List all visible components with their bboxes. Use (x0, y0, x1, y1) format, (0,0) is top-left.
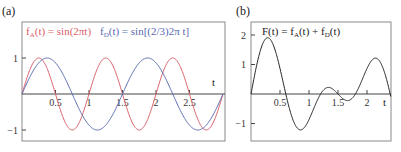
svg-text:2.5: 2.5 (183, 97, 196, 108)
svg-text:1: 1 (307, 97, 312, 108)
svg-text:1: 1 (13, 53, 18, 64)
legend-f-a: fA(t) = sin(2πt) (26, 25, 91, 39)
svg-text:2: 2 (365, 97, 370, 108)
figure: (a) 0.511.522.5 1−1 t fA(t) = sin(2πt) f… (0, 0, 401, 152)
svg-text:−1: −1 (7, 125, 18, 136)
svg-text:2: 2 (241, 30, 246, 41)
panel-b-label: (b) (236, 4, 250, 18)
panel-b-frame (251, 22, 391, 141)
legend-f-d: fD(t) = sin[(2/3)2π t] (100, 25, 189, 39)
svg-text:0.5: 0.5 (49, 97, 62, 108)
panel-a-t-label: t (212, 76, 215, 88)
panel-b: (b) 0.511.52 21−1 t F(t) = fA(t) + fD(t) (235, 4, 391, 141)
panel-b-title: F(t) = fA(t) + fD(t) (262, 25, 340, 39)
panel-b-t-label: t (383, 96, 386, 108)
panel-a-frame (22, 22, 225, 141)
svg-text:−1: −1 (235, 118, 246, 129)
panel-b-y-ticks: 21−1 (235, 30, 255, 130)
svg-text:0.5: 0.5 (274, 97, 287, 108)
series-f-sum-curve (251, 38, 391, 130)
svg-text:1: 1 (241, 59, 246, 70)
panel-a-label: (a) (2, 4, 15, 18)
panel-a: (a) 0.511.522.5 1−1 t fA(t) = sin(2πt) f… (2, 4, 225, 141)
svg-text:1.5: 1.5 (116, 97, 129, 108)
